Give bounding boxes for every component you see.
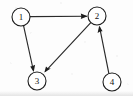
directed-graph-figure: 1 2 3 4 [0,0,133,96]
node-3-label: 3 [35,76,40,86]
node-3[interactable]: 3 [28,72,46,90]
edge-1-to-3-line [24,26,34,71]
edge-2-to-3-line [46,23,91,72]
edge-4-to-2[interactable] [98,26,109,73]
edge-4-to-2-line [100,27,109,73]
edge-2-to-3[interactable] [44,23,91,73]
node-4[interactable]: 4 [103,73,121,91]
node-2[interactable]: 2 [88,7,106,25]
edge-1-to-2[interactable] [30,14,87,19]
node-2-label: 2 [95,11,100,21]
node-1[interactable]: 1 [12,8,30,26]
edge-1-to-2-arrowhead [81,14,88,19]
graph-canvas: 1 2 3 4 [0,0,133,96]
edge-1-to-3[interactable] [24,26,35,72]
node-4-label: 4 [110,77,115,87]
node-1-label: 1 [19,12,24,22]
